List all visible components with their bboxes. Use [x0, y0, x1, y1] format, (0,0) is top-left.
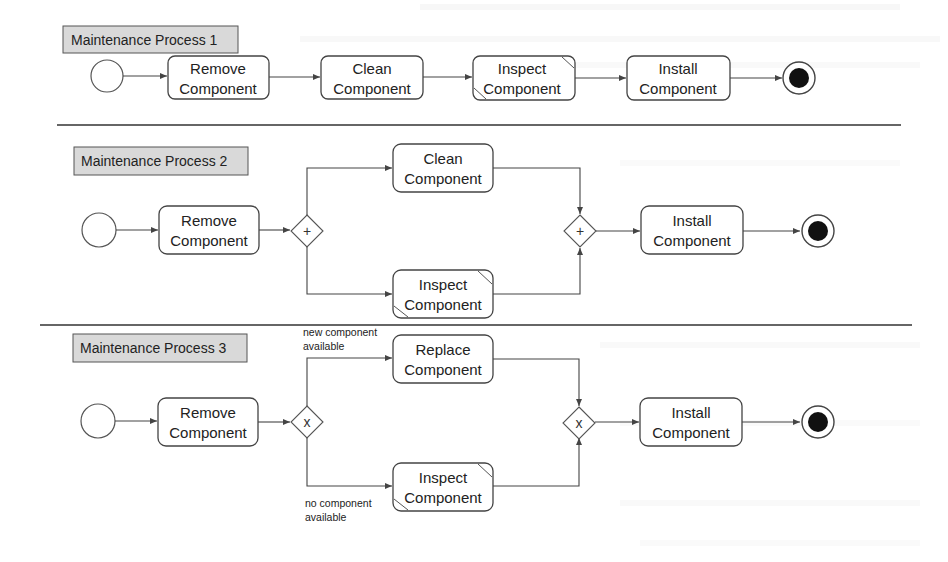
task-clean-component: Clean Component — [393, 144, 493, 192]
task-replace-component: Replace Component — [393, 335, 493, 383]
process-3-title-box: Maintenance Process 3 — [73, 334, 247, 362]
process-2: Maintenance Process 2 Remove Component +… — [74, 144, 834, 318]
task-clean-component: Clean Component — [321, 56, 423, 99]
svg-text:Component: Component — [179, 80, 257, 97]
task-inspect-component: Inspect Component — [393, 463, 493, 511]
process-3-title: Maintenance Process 3 — [80, 340, 227, 356]
process-3: Maintenance Process 3 Remove Component x… — [73, 326, 834, 523]
exclusive-gateway-icon: x — [304, 414, 311, 430]
svg-text:Inspect: Inspect — [419, 276, 468, 293]
svg-text:available: available — [303, 340, 345, 352]
svg-text:Replace: Replace — [415, 341, 470, 358]
task-remove-component: Remove Component — [159, 206, 259, 254]
condition-label-no-component: no component available — [305, 497, 372, 523]
condition-label-new-component: new component available — [303, 326, 377, 352]
svg-text:Install: Install — [672, 212, 711, 229]
process-1-title-box: Maintenance Process 1 — [63, 26, 238, 53]
start-event — [81, 404, 115, 438]
svg-text:Clean: Clean — [423, 150, 462, 167]
end-event — [802, 406, 834, 438]
svg-text:Component: Component — [169, 424, 247, 441]
svg-text:Component: Component — [170, 232, 248, 249]
end-event — [802, 215, 834, 247]
end-event — [783, 62, 815, 94]
task-inspect-component: Inspect Component — [393, 270, 493, 318]
svg-text:Component: Component — [333, 80, 411, 97]
svg-text:Component: Component — [404, 296, 482, 313]
svg-text:Component: Component — [653, 232, 731, 249]
task-install-component: Install Component — [641, 206, 743, 254]
task-install-component: Install Component — [640, 398, 742, 446]
process-2-title-box: Maintenance Process 2 — [74, 147, 248, 175]
svg-text:Install: Install — [671, 404, 710, 421]
svg-text:Component: Component — [639, 80, 717, 97]
svg-text:no component: no component — [305, 497, 372, 509]
start-event — [91, 60, 123, 92]
process-1-title: Maintenance Process 1 — [71, 32, 218, 48]
svg-text:new component: new component — [303, 326, 377, 338]
task-remove-component: Remove Component — [158, 398, 258, 446]
svg-text:Component: Component — [404, 489, 482, 506]
process-2-title: Maintenance Process 2 — [81, 153, 228, 169]
bpmn-diagram-figure: Maintenance Process 1 Remove Component C… — [0, 0, 948, 562]
svg-text:Component: Component — [404, 361, 482, 378]
svg-text:Install: Install — [658, 60, 697, 77]
svg-text:Clean: Clean — [352, 60, 391, 77]
svg-text:Inspect: Inspect — [419, 469, 468, 486]
parallel-gateway-icon: + — [303, 223, 311, 239]
svg-text:Component: Component — [652, 424, 730, 441]
svg-text:Remove: Remove — [181, 212, 237, 229]
svg-text:Component: Component — [404, 170, 482, 187]
exclusive-join-gateway: x — [563, 407, 595, 439]
exclusive-gateway-icon: x — [576, 415, 583, 431]
start-event — [82, 213, 116, 247]
task-remove-component: Remove Component — [168, 56, 269, 99]
svg-text:Remove: Remove — [190, 60, 246, 77]
exclusive-split-gateway: x — [291, 406, 323, 438]
svg-text:available: available — [305, 511, 347, 523]
parallel-split-gateway: + — [291, 215, 323, 247]
task-inspect-component: Inspect Component — [473, 56, 575, 100]
svg-text:Remove: Remove — [180, 404, 236, 421]
svg-text:Component: Component — [483, 80, 561, 97]
svg-text:Inspect: Inspect — [498, 60, 547, 77]
parallel-join-gateway: + — [564, 215, 596, 247]
task-install-component: Install Component — [627, 56, 730, 100]
parallel-gateway-icon: + — [576, 223, 584, 239]
